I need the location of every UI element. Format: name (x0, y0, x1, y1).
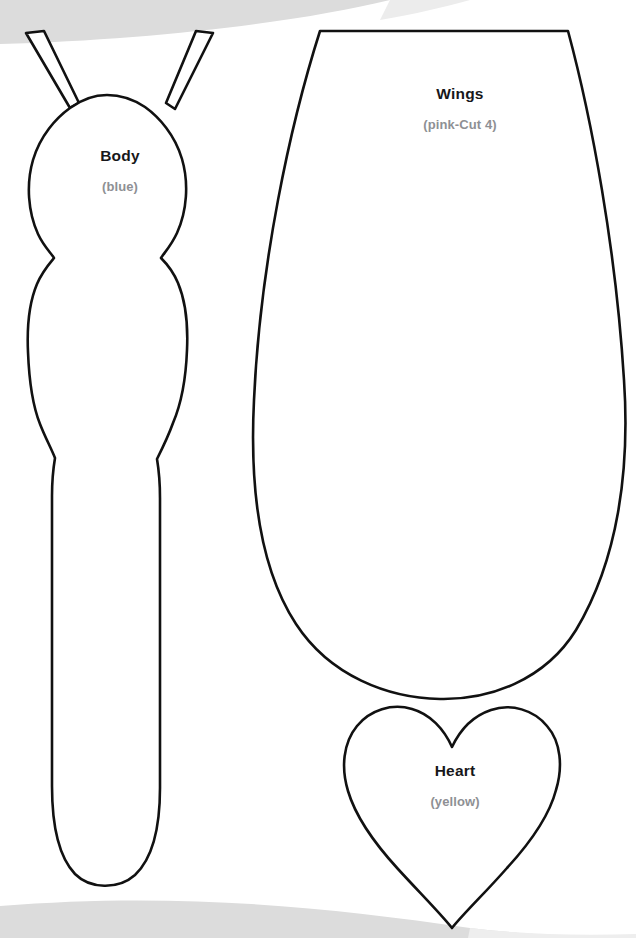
template-page: Body (blue) Wings (pink-Cut 4) Heart (ye… (0, 0, 636, 938)
piece-outline-wings (253, 31, 625, 699)
bottom-scan-edge-shadow (0, 900, 636, 938)
body-outline (28, 95, 187, 886)
bottom-scan-edge-shadow-fade (468, 928, 636, 938)
top-scan-edge-shadow-fade (380, 0, 470, 20)
pattern-canvas (0, 0, 636, 938)
piece-outline-body (26, 31, 213, 886)
heart-outline (344, 707, 560, 928)
antenna-right-outline (166, 31, 213, 109)
wings-outline (253, 31, 625, 699)
antenna-left-outline (26, 31, 79, 108)
piece-outline-heart (344, 707, 560, 928)
